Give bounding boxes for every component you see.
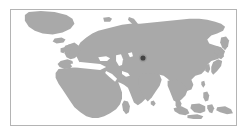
location-marker-group[interactable]	[139, 54, 147, 62]
location-marker-dot[interactable]	[140, 55, 145, 60]
world-map	[11, 10, 236, 125]
locator-map-figure	[0, 0, 248, 137]
map-frame	[10, 9, 237, 126]
